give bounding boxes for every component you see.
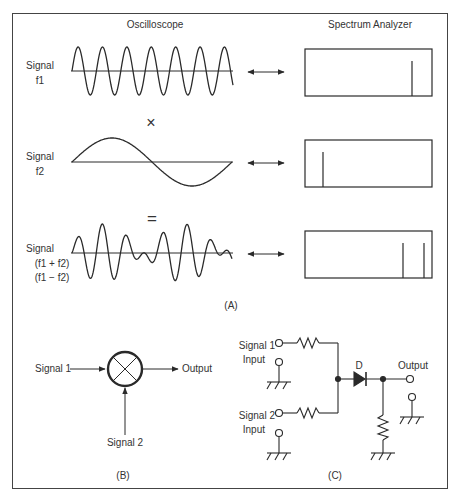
spectrum-display-f2	[305, 140, 432, 187]
mixer-input1-label: Signal 1	[35, 363, 71, 375]
spectrum-display-f1	[305, 49, 432, 96]
panel-b-caption: (B)	[116, 470, 129, 482]
diagram-canvas	[0, 0, 456, 497]
mixer-input2-label: Signal 2	[107, 437, 143, 449]
multiply-operator: ×	[146, 117, 155, 129]
mixer-block	[70, 352, 178, 435]
circuit-input2-label-line1: Signal 2	[239, 410, 275, 422]
mixer-output-label: Output	[182, 363, 212, 375]
circuit-input1-label-line2: Input	[243, 354, 265, 366]
signal-f2-label-line2: f2	[36, 166, 44, 178]
diode-mixer-circuit	[267, 338, 424, 460]
waveform-product	[71, 224, 233, 281]
signal-f1-label-line2: f1	[36, 75, 44, 87]
circuit-input1-label-line1: Signal 1	[239, 340, 275, 352]
panel-c-caption: (C)	[328, 470, 342, 482]
oscilloscope-header: Oscilloscope	[127, 19, 184, 31]
spectrum-analyzer-header: Spectrum Analyzer	[328, 19, 412, 31]
equals-operator: =	[147, 213, 157, 225]
waveform-f2	[71, 138, 233, 186]
signal-product-label-line1: Signal	[26, 243, 54, 255]
circuit-input2-label-line2: Input	[243, 424, 265, 436]
signal-f2-label-line1: Signal	[26, 151, 54, 163]
diode-label: D	[355, 360, 362, 372]
spectrum-display-product	[305, 231, 432, 278]
signal-f1-label-line1: Signal	[26, 60, 54, 72]
panel-a-caption: (A)	[224, 300, 237, 312]
signal-product-label-line3: (f1 − f2)	[35, 272, 70, 284]
waveform-f1	[71, 47, 233, 95]
signal-product-label-line2: (f1 + f2)	[35, 258, 70, 270]
circuit-output-label: Output	[398, 360, 428, 372]
